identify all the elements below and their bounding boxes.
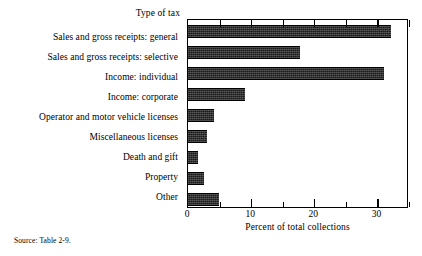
x-tick-label: 20 — [309, 209, 319, 220]
bar — [188, 172, 204, 185]
x-tick-label: 10 — [245, 209, 255, 220]
x-axis-title: Percent of total collections — [187, 222, 408, 232]
axis-tick — [346, 202, 347, 207]
chart-figure: Type of tax Sales and gross receipts: ge… — [0, 0, 422, 256]
category-label: Sales and gross receipts: general — [0, 32, 178, 42]
category-label: Miscellaneous licenses — [0, 132, 178, 142]
category-axis-title: Type of tax — [0, 8, 180, 18]
category-label: Other — [0, 192, 178, 202]
axis-tick — [377, 199, 378, 207]
axis-tick — [283, 202, 284, 207]
source-note: Source: Table 2-9. — [14, 236, 71, 245]
bar — [188, 46, 300, 59]
bar — [188, 193, 219, 206]
axis-tick — [251, 20, 252, 27]
axis-tick — [314, 199, 315, 207]
category-label: Income: corporate — [0, 92, 178, 102]
axis-tick — [314, 20, 315, 27]
bar — [188, 130, 207, 143]
axis-tick — [409, 202, 410, 207]
bar — [188, 109, 214, 122]
bar — [188, 67, 384, 80]
axis-tick — [283, 20, 284, 27]
category-label: Property — [0, 172, 178, 182]
category-label-column: Sales and gross receipts: general Sales … — [0, 19, 182, 207]
category-label: Sales and gross receipts: selective — [0, 52, 178, 62]
bars-layer — [188, 20, 407, 207]
axis-tick — [220, 202, 221, 207]
bar — [188, 88, 245, 101]
axis-tick — [346, 20, 347, 27]
category-label: Death and gift — [0, 152, 178, 162]
category-label: Operator and motor vehicle licenses — [0, 112, 178, 122]
category-label: Income: individual — [0, 72, 178, 82]
axis-tick — [409, 20, 410, 27]
x-tick-label: 30 — [372, 209, 382, 220]
axis-tick — [377, 20, 378, 27]
x-tick-label: 0 — [185, 209, 190, 220]
x-axis-tick-labels: 0102030 — [187, 209, 417, 223]
bar — [188, 151, 198, 164]
bar — [188, 25, 391, 38]
axis-tick — [251, 199, 252, 207]
axis-tick — [220, 20, 221, 27]
plot-area — [187, 19, 408, 208]
